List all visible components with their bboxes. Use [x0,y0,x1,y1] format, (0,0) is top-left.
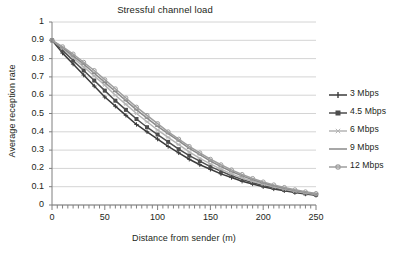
line-marker-icon [328,141,348,153]
y-tick-label: 0.6 [18,89,44,99]
gridlines [52,22,316,205]
x-tick-label: 200 [248,212,278,222]
cross-marker-icon [328,87,348,99]
y-tick-label: 0.5 [18,108,44,118]
legend-item[interactable]: 12 Mbps [328,156,403,174]
chart-container: Stressful channel load Average reception… [0,0,403,255]
legend-item[interactable]: 6 Mbps [328,120,403,138]
x-tick-label: 50 [90,212,120,222]
chart-legend: 3 Mbps4.5 Mbps6 Mbps9 Mbps12 Mbps [328,84,403,174]
y-tick-label: 0.4 [18,126,44,136]
axis-ticks [49,22,316,210]
y-tick-label: 0 [18,199,44,209]
y-tick-label: 0.7 [18,71,44,81]
y-tick-label: 1 [18,16,44,26]
square-marker-icon [328,105,348,117]
legend-item[interactable]: 3 Mbps [328,84,403,102]
y-tick-label: 0.2 [18,162,44,172]
circle-marker-icon [328,159,348,171]
x-tick-label: 0 [37,212,67,222]
legend-label: 3 Mbps [350,88,379,98]
legend-label: 12 Mbps [350,160,384,170]
x-tick-label: 250 [301,212,331,222]
legend-item[interactable]: 4.5 Mbps [328,102,403,120]
x-tick-label: 150 [195,212,225,222]
star-marker-icon [328,123,348,135]
series-lines [50,38,319,197]
legend-label: 6 Mbps [350,124,379,134]
y-tick-label: 0.3 [18,144,44,154]
legend-item[interactable]: 9 Mbps [328,138,403,156]
legend-label: 9 Mbps [350,142,379,152]
y-tick-label: 0.1 [18,181,44,191]
x-tick-label: 100 [143,212,173,222]
y-tick-label: 0.9 [18,34,44,44]
y-tick-label: 0.8 [18,53,44,63]
legend-label: 4.5 Mbps [350,106,386,116]
